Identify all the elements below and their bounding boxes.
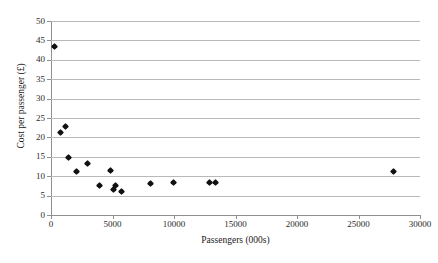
y-tick-label: 35 [19, 75, 45, 84]
y-tick [47, 137, 51, 138]
x-tick-label: 30000 [390, 219, 438, 229]
y-tick [47, 196, 51, 197]
y-tick-label: 40 [19, 55, 45, 64]
y-tick-label: 30 [19, 94, 45, 103]
y-tick [47, 79, 51, 80]
y-tick-label: 15 [19, 152, 45, 161]
y-tick-label: 50 [19, 17, 45, 26]
gridline [51, 40, 420, 41]
x-tick-label: 10000 [144, 219, 204, 229]
gridline [51, 137, 420, 138]
y-tick-label: 10 [19, 172, 45, 181]
gridline [51, 176, 420, 177]
scatter-chart: Passengers (000s) Cost per passenger (£)… [0, 0, 438, 263]
gridline [51, 157, 420, 158]
y-tick [47, 118, 51, 119]
y-tick [47, 40, 51, 41]
y-tick [47, 99, 51, 100]
gridline [51, 21, 420, 22]
gridline [51, 60, 420, 61]
x-axis-title: Passengers (000s) [51, 235, 420, 245]
y-tick-label: 25 [19, 114, 45, 123]
gridline [51, 118, 420, 119]
y-tick [47, 157, 51, 158]
x-tick-label: 20000 [267, 219, 327, 229]
x-tick-label: 0 [21, 219, 81, 229]
y-tick-label: 20 [19, 133, 45, 142]
x-tick-label: 25000 [329, 219, 389, 229]
y-tick-label: 5 [19, 191, 45, 200]
y-tick [47, 60, 51, 61]
x-tick-label: 15000 [206, 219, 266, 229]
gridline [51, 196, 420, 197]
y-tick [47, 21, 51, 22]
gridline [51, 99, 420, 100]
x-tick-label: 5000 [83, 219, 143, 229]
y-tick-label: 45 [19, 36, 45, 45]
gridline [51, 79, 420, 80]
y-tick [47, 176, 51, 177]
